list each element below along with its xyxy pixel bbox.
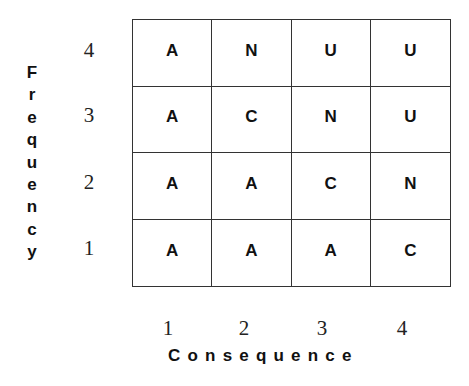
y-axis-title-letter: c [27, 219, 36, 241]
y-tick-label-3: 3 [74, 103, 104, 127]
matrix-cell: A [292, 220, 371, 287]
y-axis-title-letter: r [29, 84, 36, 106]
matrix-cell: C [212, 87, 291, 154]
y-axis-title-letter: e [27, 174, 36, 196]
y-axis-title-letter: n [27, 196, 37, 218]
matrix-cell: C [371, 220, 450, 287]
matrix-cell: A [133, 20, 212, 87]
y-axis-title: F r e q u e n c y [22, 62, 42, 264]
x-tick-label-1: 1 [153, 316, 183, 340]
matrix-grid: A N U U A C N U A A C N A A A C [132, 19, 451, 287]
y-axis-title-letter: e [27, 107, 36, 129]
y-axis-title-letter: q [27, 129, 37, 151]
matrix-cell: A [133, 220, 212, 287]
matrix-cell: U [371, 87, 450, 154]
y-axis-title-letter: u [27, 152, 37, 174]
y-tick-label-1: 1 [74, 236, 104, 260]
matrix-cell: A [212, 153, 291, 220]
matrix-cell: A [133, 153, 212, 220]
matrix-cell: A [133, 87, 212, 154]
y-tick-label-2: 2 [74, 170, 104, 194]
x-tick-label-3: 3 [307, 316, 337, 340]
matrix-cell: U [292, 20, 371, 87]
x-axis-title: Consequence [168, 346, 374, 366]
matrix-cell: N [371, 153, 450, 220]
y-axis-title-letter: F [27, 62, 37, 84]
x-tick-label-4: 4 [387, 316, 417, 340]
x-tick-label-2: 2 [229, 316, 259, 340]
matrix-cell: N [292, 87, 371, 154]
matrix-cell: A [212, 220, 291, 287]
y-axis-title-letter: y [27, 241, 36, 263]
y-tick-label-4: 4 [74, 38, 104, 62]
matrix-cell: C [292, 153, 371, 220]
matrix-cell: N [212, 20, 291, 87]
matrix-cell: U [371, 20, 450, 87]
